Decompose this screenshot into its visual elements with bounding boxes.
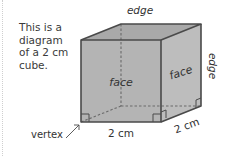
cube-diagram: edge edge face face vertex 2 cm 2 cm [0, 0, 230, 156]
vertex-arrow-icon [66, 125, 79, 138]
top-edge-label: edge [127, 4, 153, 16]
bottom-length-label: 2 cm [108, 127, 134, 139]
right-edge-label: edge [207, 53, 219, 79]
depth-length-label: 2 cm [172, 115, 201, 135]
vertex-label: vertex [31, 129, 63, 140]
front-face-label: face [109, 76, 133, 89]
